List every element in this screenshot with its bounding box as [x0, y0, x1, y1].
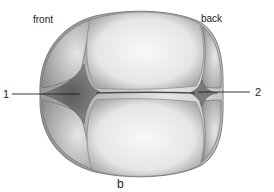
back-label: back	[201, 14, 222, 24]
skull-figure: front back 1 2 b	[0, 0, 274, 192]
callout-number-2: 2	[255, 87, 261, 98]
panel-label: b	[117, 178, 124, 190]
sagittal-suture	[96, 92, 195, 93]
skull-illustration	[0, 0, 274, 192]
front-label: front	[33, 15, 53, 25]
callout-number-1: 1	[3, 89, 9, 100]
